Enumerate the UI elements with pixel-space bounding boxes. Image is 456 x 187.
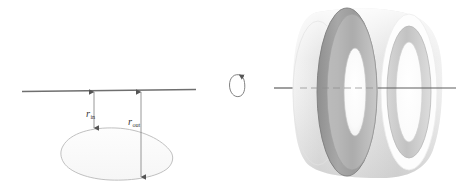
solid-of-revolution — [274, 8, 456, 178]
planar-region — [61, 128, 173, 180]
cross-section-diagram: rin rout — [22, 90, 196, 181]
r-out-label-sub: out — [132, 121, 140, 128]
rotation-arrow-path — [230, 75, 245, 97]
inner-hole-left — [344, 48, 366, 136]
inner-hole-right — [396, 42, 422, 142]
figure-canvas: rin rout — [0, 0, 456, 187]
r-in-label-sub: in — [90, 113, 95, 120]
figure-root: rin rout — [0, 0, 456, 187]
rotation-arrow — [230, 75, 245, 97]
measure-r-in: rin — [86, 92, 95, 128]
r-out-label: rout — [128, 116, 141, 128]
axis-of-revolution — [22, 90, 196, 92]
